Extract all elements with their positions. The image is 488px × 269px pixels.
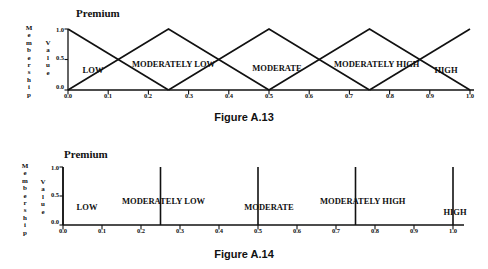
set-label-moderately-low-a14: MODERATELY LOW <box>122 197 198 207</box>
figure-a13: Premium Membership Value 1.0 0.5 0.0 <box>0 0 488 135</box>
x-tick-0-9-a13: 0.9 <box>420 92 440 99</box>
set-label-high-a14: HIGH <box>433 208 477 218</box>
x-tick-0-6-a14: 0.6 <box>287 227 307 234</box>
set-label-low-a14: LOW <box>64 203 110 213</box>
set-label-line2: HIGH <box>382 196 405 206</box>
set-label-line2: LOW <box>184 196 205 206</box>
x-tick-0-5-a14: 0.5 <box>248 227 268 234</box>
x-tick-0-8-a13: 0.8 <box>380 92 400 99</box>
x-tick-0-2-a14: 0.2 <box>131 227 151 234</box>
x-tick-0-4-a13: 0.4 <box>219 92 239 99</box>
figure-caption-a13: Figure A.13 <box>0 111 488 123</box>
x-tick-0-8-a14: 0.8 <box>365 227 385 234</box>
set-label-line2: HIGH <box>396 59 419 69</box>
set-label-line1: MODERATELY <box>122 196 182 206</box>
x-tick-0-5-a13: 0.5 <box>259 92 279 99</box>
set-label-moderate-a13: MODERATE <box>244 64 310 74</box>
x-tick-0-7-a13: 0.7 <box>339 92 359 99</box>
set-label-moderately-high-a13: MODERATELY HIGH <box>334 60 410 70</box>
x-tick-0-9-a14: 0.9 <box>404 227 424 234</box>
set-label-line1: MODERATELY <box>320 196 380 206</box>
set-label-low-a13: LOW <box>68 66 118 76</box>
x-tick-1-0-a14: 1.0 <box>443 227 463 234</box>
figure-caption-a14: Figure A.14 <box>0 248 488 260</box>
x-tick-0-6-a13: 0.6 <box>299 92 319 99</box>
x-tick-0-4-a14: 0.4 <box>209 227 229 234</box>
x-tick-0-3-a13: 0.3 <box>179 92 199 99</box>
set-label-moderately-high-a14: MODERATELY HIGH <box>320 197 396 207</box>
set-label-line1: MODERATELY <box>132 59 192 69</box>
x-tick-0-1-a13: 0.1 <box>98 92 118 99</box>
set-label-line2: LOW <box>194 59 215 69</box>
set-label-moderately-low-a13: MODERATELY LOW <box>132 60 208 70</box>
x-tick-0-7-a14: 0.7 <box>326 227 346 234</box>
x-tick-0-0-a13: 0.0 <box>58 92 78 99</box>
set-label-high-a13: HIGH <box>424 66 468 76</box>
x-tick-0-3-a14: 0.3 <box>170 227 190 234</box>
x-tick-1-0-a13: 1.0 <box>460 92 480 99</box>
figure-a14: Premium Membership Value 1.0 0.5 0.0 <box>0 135 488 269</box>
x-tick-0-2-a13: 0.2 <box>138 92 158 99</box>
x-tick-0-0-a14: 0.0 <box>53 227 73 234</box>
set-label-line1: MODERATELY <box>334 59 394 69</box>
x-tick-0-1-a14: 0.1 <box>92 227 112 234</box>
set-label-moderate-a14: MODERATE <box>236 203 302 213</box>
